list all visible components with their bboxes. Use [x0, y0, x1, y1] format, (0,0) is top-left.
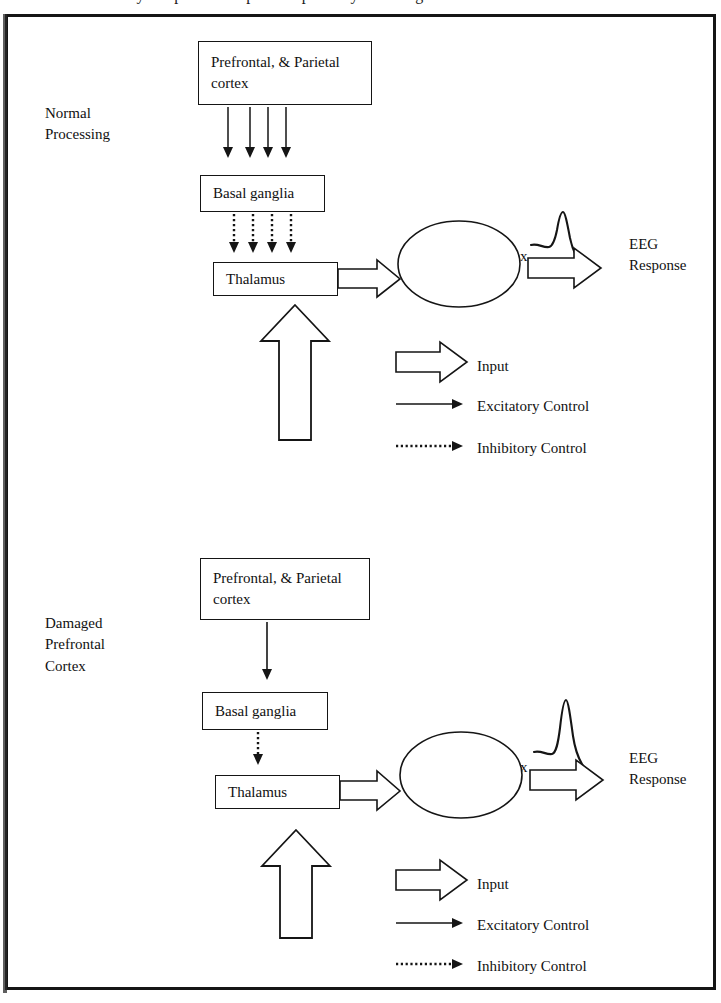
node-prefrontal-parietal-cortex-damaged[interactable]: Prefrontal, & Parietal cortex: [200, 558, 370, 620]
legend-inhibitory-label-damaged: Inhibitory Control: [477, 956, 587, 977]
node-auditory-cortex-label-damaged: Auditory cortex: [432, 757, 527, 777]
figure-page: cortex. Only the prefrontal/parietal pat…: [0, 0, 721, 1003]
node-basal-ganglia-normal[interactable]: Basal ganglia: [200, 175, 325, 212]
legend-input-label-normal: Input: [477, 356, 509, 377]
node-basal-ganglia-damaged[interactable]: Basal ganglia: [202, 692, 328, 730]
legend-input-label-damaged: Input: [477, 874, 509, 895]
node-auditory-cortex-label-normal: Auditory cortex: [432, 246, 527, 266]
top-cut-text-sliver: cortex. Only the prefrontal/parietal pat…: [0, 0, 721, 12]
node-thalamus-damaged[interactable]: Thalamus: [215, 775, 340, 809]
legend-excitatory-label-damaged: Excitatory Control: [477, 915, 589, 936]
node-thalamus-normal[interactable]: Thalamus: [213, 262, 338, 296]
figure-frame: [5, 14, 716, 990]
top-cut-text: cortex. Only the prefrontal/parietal pat…: [60, 0, 440, 4]
eeg-response-label-normal: EEG Response: [629, 234, 687, 277]
section-label-damaged: Damaged Prefrontal Cortex: [45, 613, 105, 677]
node-prefrontal-parietal-cortex-normal[interactable]: Prefrontal, & Parietal cortex: [198, 41, 372, 105]
legend-inhibitory-label-normal: Inhibitory Control: [477, 438, 587, 459]
section-label-normal: Normal Processing: [45, 103, 110, 146]
legend-excitatory-label-normal: Excitatory Control: [477, 396, 589, 417]
eeg-response-label-damaged: EEG Response: [629, 748, 687, 791]
